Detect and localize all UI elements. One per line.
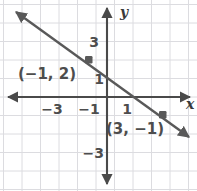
point-label-neg1-2: (−1, 2) (18, 65, 76, 83)
y-tick-label-1: 1 (94, 71, 104, 87)
x-tick-label-1: 1 (122, 101, 132, 117)
coordinate-plane-figure: y x 3 1 −3 −3 −1 1 (−1, 2) (3, −1) (0, 0, 197, 191)
graph-canvas: y x 3 1 −3 −3 −1 1 (−1, 2) (3, −1) (0, 0, 197, 191)
y-axis-name: y (119, 4, 129, 20)
y-tick-label-3: 3 (89, 34, 99, 50)
point-label-3-neg1: (3, −1) (106, 120, 164, 138)
y-tick-label-neg3: −3 (83, 145, 104, 161)
point-marker-3-neg1 (159, 111, 167, 119)
grid-lines (0, 0, 197, 191)
point-marker-neg1-2 (85, 56, 93, 64)
x-axis-name: x (185, 96, 195, 112)
x-tick-label-neg1: −1 (78, 101, 99, 117)
x-tick-label-neg3: −3 (41, 101, 62, 117)
